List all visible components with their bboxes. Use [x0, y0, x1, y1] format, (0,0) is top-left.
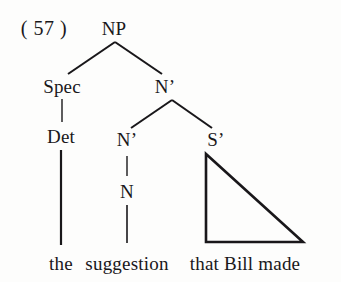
node-np: NP — [102, 19, 127, 38]
branch-np-to-spec — [68, 42, 115, 74]
terminal-suggestion: suggestion — [85, 254, 168, 273]
branch-np-to-nbar — [115, 42, 162, 74]
node-nbar-lower: N’ — [117, 130, 137, 149]
branch-nbar-to-nbar — [131, 100, 172, 128]
example-number: ( 57 ) — [21, 17, 67, 40]
node-det: Det — [47, 127, 75, 146]
branch-nbar-to-sbar — [172, 100, 212, 128]
node-n: N — [120, 182, 134, 201]
terminal-that-bill-made: that Bill made — [190, 254, 300, 273]
terminal-the: the — [49, 254, 73, 273]
sbar-coverage-triangle — [206, 154, 303, 242]
node-nbar-upper: N’ — [155, 77, 175, 96]
node-sbar: S’ — [207, 130, 224, 149]
syntax-tree-figure: ( 57 ) NP Spec N’ Det N’ S’ N the sugges… — [0, 0, 341, 282]
node-spec: Spec — [43, 77, 81, 96]
